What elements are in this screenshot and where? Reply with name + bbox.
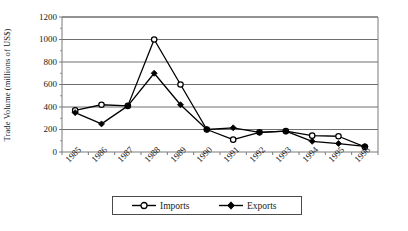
data-point-imports-1988 <box>151 37 156 42</box>
data-point-imports-1986 <box>99 102 104 107</box>
data-point-imports-1989 <box>178 82 183 87</box>
data-point-imports-1995 <box>336 134 341 139</box>
legend-label-imports: Imports <box>160 201 190 211</box>
legend-label-exports: Exports <box>247 201 277 211</box>
legend-marker-filled-diamond-icon <box>218 200 244 211</box>
data-point-imports-1994 <box>309 133 314 138</box>
data-point-imports-1991 <box>230 137 235 142</box>
legend-entry-imports: Imports <box>131 197 190 214</box>
chart-legend: Imports Exports <box>112 196 302 215</box>
chart-figure: Trade Volume (millions of US$) 120010008… <box>0 0 408 231</box>
legend-entry-exports: Exports <box>218 197 277 214</box>
legend-marker-open-circle-icon <box>131 200 157 211</box>
